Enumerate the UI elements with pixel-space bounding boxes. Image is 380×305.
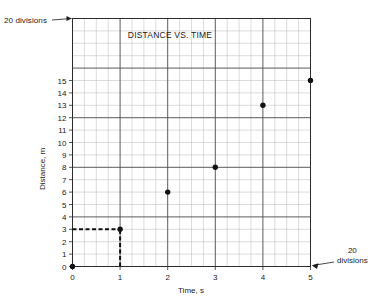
annotation-arrowhead-bottom-right xyxy=(312,263,319,269)
y-tick-label: 7 xyxy=(43,175,67,184)
annotation-arrowhead-top-left xyxy=(67,16,72,21)
y-tick-label: 1 xyxy=(43,250,67,259)
y-tick-label: 13 xyxy=(43,101,67,110)
chart-figure: DISTANCE VS. TIME Time, s Distance, m 20… xyxy=(0,0,380,305)
y-tick-label: 2 xyxy=(43,237,67,246)
data-point xyxy=(70,264,75,269)
y-tick-label: 12 xyxy=(43,113,67,122)
x-tick-label: 3 xyxy=(203,273,227,282)
data-point xyxy=(260,103,265,108)
data-point xyxy=(213,165,218,170)
y-tick-label: 9 xyxy=(43,150,67,159)
y-tick-label: 8 xyxy=(43,163,67,172)
y-tick-label: 0 xyxy=(43,262,67,271)
x-tick-label: 1 xyxy=(108,273,132,282)
x-axis-title: Time, s xyxy=(178,286,204,295)
y-tick-label: 14 xyxy=(43,88,67,97)
data-point xyxy=(117,227,122,232)
y-tick-label: 5 xyxy=(43,200,67,209)
y-tick-label: 10 xyxy=(43,138,67,147)
annotation-bottom-right-line1: 20 xyxy=(348,246,357,255)
x-tick-label: 5 xyxy=(299,273,323,282)
y-tick-label: 3 xyxy=(43,225,67,234)
data-point xyxy=(308,78,313,83)
x-tick-label: 4 xyxy=(251,273,275,282)
y-tick-label: 6 xyxy=(43,188,67,197)
data-point xyxy=(165,189,170,194)
y-tick-label: 4 xyxy=(43,212,67,221)
y-tick-label: 11 xyxy=(43,126,67,135)
y-tick-label: 15 xyxy=(43,76,67,85)
x-tick-label: 0 xyxy=(61,273,85,282)
annotation-bottom-right-divisions: 20 divisions xyxy=(337,246,368,266)
chart-title: DISTANCE VS. TIME xyxy=(128,30,212,40)
annotation-bottom-right-line2: divisions xyxy=(337,256,368,265)
x-tick-label: 2 xyxy=(156,273,180,282)
annotation-top-left-divisions: 20 divisions xyxy=(4,16,47,25)
